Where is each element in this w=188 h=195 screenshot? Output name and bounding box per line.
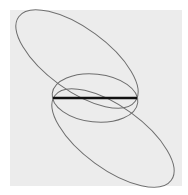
ellipse-diagram (0, 0, 188, 195)
